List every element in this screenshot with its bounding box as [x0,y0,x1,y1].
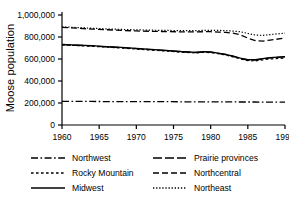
y-axis-tick-label: 600,000 [24,54,55,64]
legend-item-label: Rocky Mountain [72,168,134,178]
legend-item[interactable]: Northeast [152,180,286,195]
legend-item[interactable]: Prairie provinces [152,150,286,165]
x-axis-tick-label: 1980 [201,132,220,142]
series-line [62,101,285,102]
legend-item[interactable]: Northcentral [152,165,286,180]
legend-line-sample [152,183,188,193]
x-axis-tick-label: 1990 [276,132,289,142]
line-chart-plot: 0200,000400,000600,000800,0001,000,00019… [0,0,289,148]
series-line [62,45,285,60]
legend-item[interactable]: Northwest [30,150,152,165]
series-line [62,45,285,61]
legend-line-sample [30,183,66,193]
legend-item-label: Midwest [72,183,104,193]
legend-item-label: Northcentral [194,168,241,178]
y-axis-tick-label: 1,000,000 [17,10,55,20]
legend-item-label: Northwest [72,153,111,163]
legend-line-sample [152,168,188,178]
y-axis-tick-label: 400,000 [24,76,55,86]
legend-line-sample [30,168,66,178]
x-axis-tick-label: 1975 [164,132,183,142]
x-axis-tick-label: 1985 [238,132,257,142]
legend-item[interactable]: Midwest [30,180,152,195]
x-axis-tick-label: 1960 [53,132,72,142]
legend-line-sample [152,153,188,163]
chart-figure: Moose population 0200,000400,000600,0008… [0,0,289,200]
y-axis-tick-label: 0 [50,120,55,130]
y-axis-tick-label: 800,000 [24,32,55,42]
legend-item[interactable]: Rocky Mountain [30,165,152,180]
chart-legend: NorthwestPrairie provincesRocky Mountain… [30,150,286,198]
y-axis-tick-label: 200,000 [24,98,55,108]
legend-item-label: Northeast [194,183,231,193]
legend-line-sample [30,153,66,163]
legend-item-label: Prairie provinces [194,153,258,163]
x-axis-tick-label: 1965 [90,132,109,142]
x-axis-tick-label: 1970 [127,132,146,142]
